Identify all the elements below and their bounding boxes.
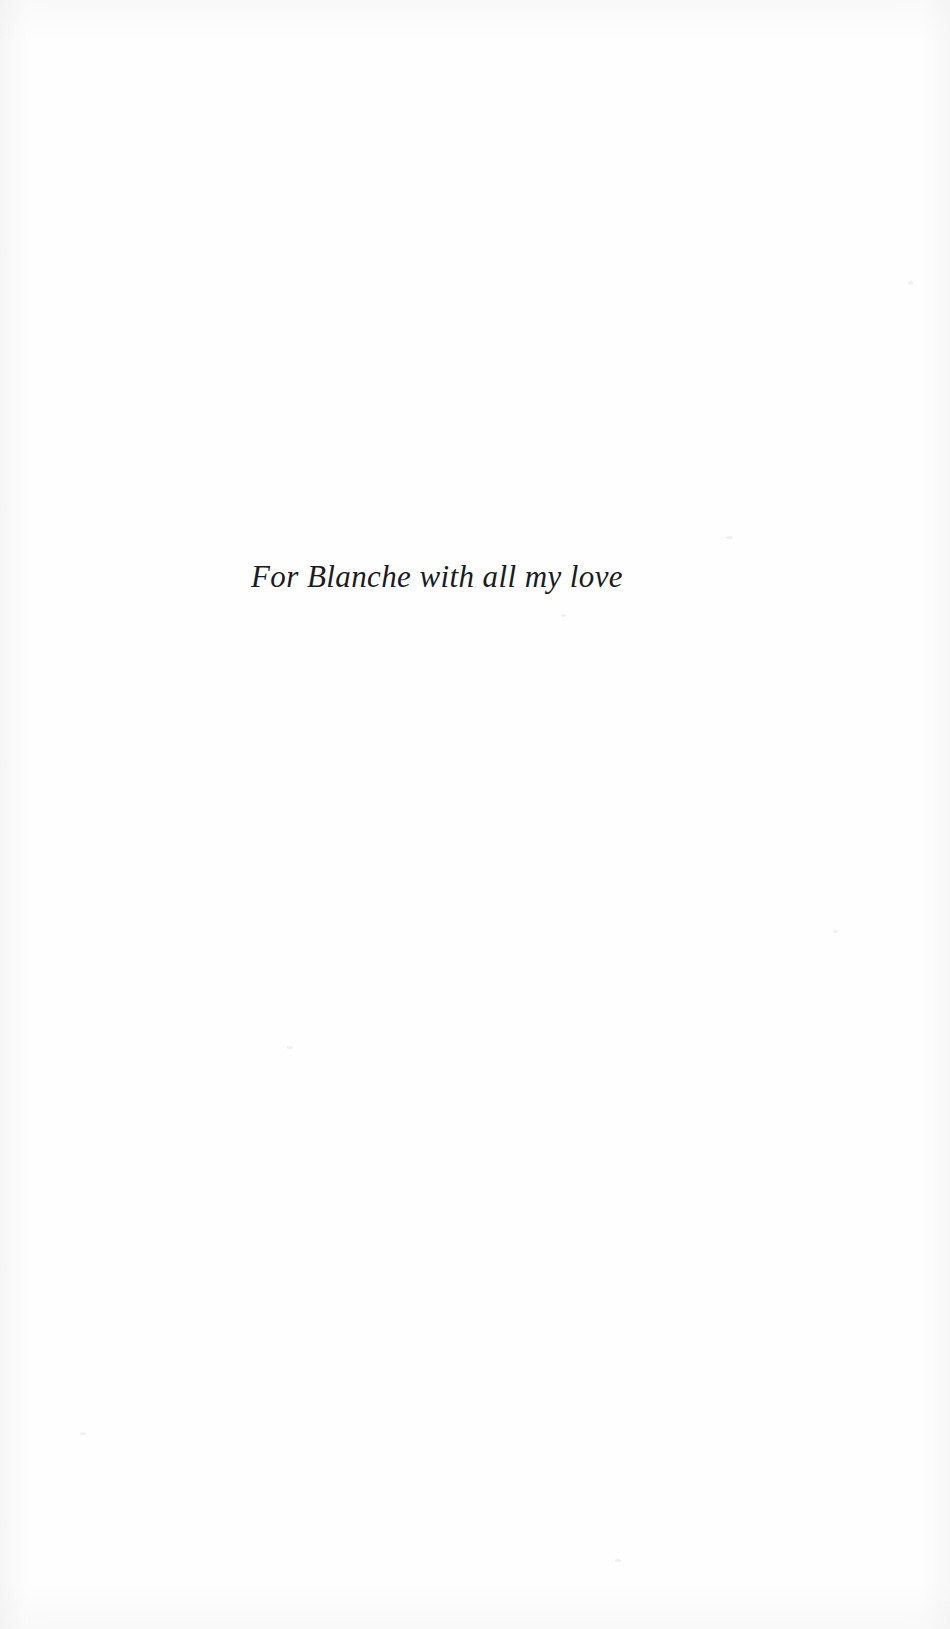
paper-texture-overlay bbox=[0, 0, 950, 1629]
scan-speck bbox=[287, 1046, 293, 1049]
scan-speck bbox=[908, 281, 913, 285]
scan-speck bbox=[615, 1559, 621, 1562]
scan-speck bbox=[726, 536, 733, 539]
book-page: For Blanche with all my love bbox=[0, 0, 950, 1629]
dedication-block: For Blanche with all my love bbox=[0, 556, 950, 598]
dedication-text: For Blanche with all my love bbox=[251, 556, 623, 598]
scan-speck bbox=[833, 930, 838, 933]
scan-speck bbox=[561, 614, 566, 617]
scan-speck bbox=[80, 1432, 86, 1435]
